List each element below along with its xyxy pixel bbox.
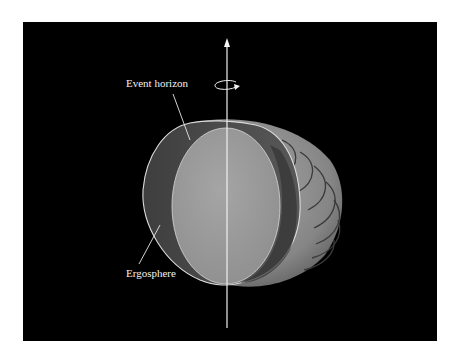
axis-arrowhead-icon: [224, 38, 230, 47]
ergosphere-leader-line: [139, 225, 160, 264]
black-hole-diagram: [0, 0, 457, 364]
event-horizon-cut-face: [172, 128, 280, 284]
ergosphere-label: Ergosphere: [126, 268, 176, 279]
event-horizon-label: Event horizon: [126, 78, 188, 89]
